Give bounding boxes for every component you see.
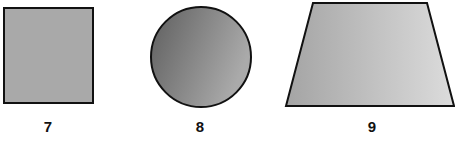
square-shape (4, 8, 93, 103)
circle-shape (151, 7, 251, 107)
figure-label-7: 7 (33, 118, 63, 135)
trapezoid-shape (286, 3, 454, 106)
figure-label-8: 8 (185, 118, 215, 135)
figure-label-9: 9 (357, 118, 387, 135)
